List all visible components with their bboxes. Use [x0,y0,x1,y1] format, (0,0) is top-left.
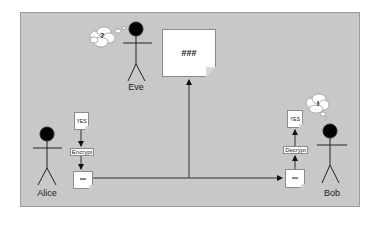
decrypt-label: Decrypt [285,147,306,153]
page-fold-icon [299,124,303,128]
page-fold-icon [89,185,93,189]
bob-plaintext: YES [290,116,300,122]
alice-figure-icon [33,127,62,185]
bob-ciphertext-document: *** [285,169,305,188]
intercepted-document: ### [162,29,216,77]
bob-figure-icon [317,124,347,183]
bob-thought-text: ! [312,99,324,108]
bob-ciphertext: *** [292,176,298,182]
eve-figure-icon [123,22,152,81]
alice-label: Alice [32,188,62,198]
encrypt-step: Encrypt [70,148,94,156]
alice-ciphertext-document: *** [73,171,93,189]
intercepted-text: ### [181,48,196,58]
bob-plaintext-document: YES [287,110,303,128]
page-fold-icon [301,184,305,188]
bob-label: Bob [317,188,347,198]
alice-plaintext-document: YES [74,112,89,130]
alice-ciphertext: *** [80,177,86,183]
page-fold-icon [206,67,216,77]
eve-thought-text: ? [96,31,108,40]
encrypt-label: Encrypt [72,149,92,155]
alice-plaintext: YES [76,118,86,124]
decrypt-step: Decrypt [283,146,308,154]
eve-label: Eve [121,82,151,92]
page-fold-icon [85,126,89,130]
